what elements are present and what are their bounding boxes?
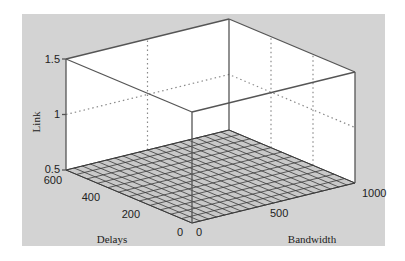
y-tick-400: 400 [82, 191, 100, 203]
surface-plot-figure: 1.5 1 0.5 Link 600 400 200 0 Delays 0 50… [0, 0, 405, 261]
plot-canvas: 1.5 1 0.5 Link 600 400 200 0 Delays 0 50… [0, 0, 405, 261]
x-tick-0: 0 [196, 226, 202, 238]
z-tick-1: 1 [54, 108, 60, 120]
y-tick-600: 600 [44, 174, 62, 186]
y-tick-0: 0 [177, 226, 183, 238]
z-tick-1.5: 1.5 [45, 53, 60, 65]
y-tick-200: 200 [122, 208, 140, 220]
x-axis-label: Bandwidth [288, 233, 337, 245]
z-axis-label: Link [30, 111, 42, 132]
x-tick-500: 500 [270, 207, 288, 219]
x-tick-1000: 1000 [362, 187, 386, 199]
y-axis-label: Delays [97, 233, 128, 245]
